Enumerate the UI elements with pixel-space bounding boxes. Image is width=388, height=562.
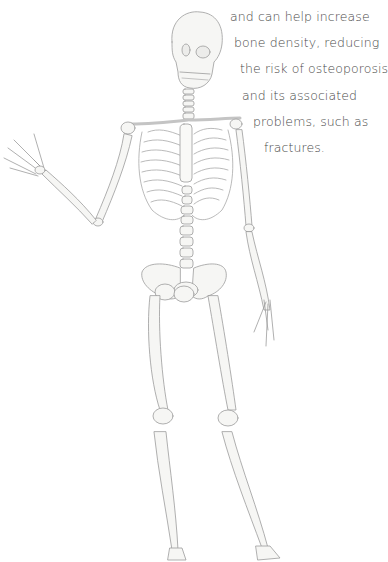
caption-line-1: and can help increase [230, 9, 370, 24]
caption: and can help increase bone density, redu… [0, 0, 373, 200]
caption-line-2: bone density, reducing [234, 35, 379, 50]
caption-line-5: problems, such as [253, 114, 368, 129]
caption-line-6: fractures. [264, 140, 325, 155]
left-hand [254, 300, 274, 346]
caption-line-3: the risk of osteoporosis [240, 61, 388, 76]
caption-line-4: and its associated [242, 88, 357, 103]
